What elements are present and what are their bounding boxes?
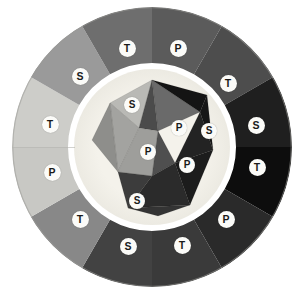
outer-label-badge-7-t[interactable]: T [72, 211, 89, 228]
outer-label-badge-4-p[interactable]: P [218, 211, 235, 228]
outer-label-badge-9-t[interactable]: T [42, 116, 59, 133]
outer-label-badge-3-t[interactable]: T [249, 159, 266, 176]
inner-label-badge-4-p[interactable]: P [179, 157, 195, 173]
inner-label-badge-3-p[interactable]: P [140, 144, 156, 160]
outer-label-badge-11-t[interactable]: T [119, 40, 136, 57]
outer-label-badge-8-p[interactable]: P [44, 164, 61, 181]
inner-label-badge-1-p[interactable]: P [171, 120, 187, 136]
outer-label-badge-5-t[interactable]: T [174, 237, 191, 254]
outer-label-badge-2-s[interactable]: S [248, 117, 265, 134]
outer-label-badge-10-s[interactable]: S [72, 68, 89, 85]
outer-label-badge-1-t[interactable]: T [220, 75, 237, 92]
outer-label-badge-0-p[interactable]: P [170, 40, 187, 57]
outer-label-badge-6-s[interactable]: S [120, 238, 137, 255]
inner-label-badge-0-s[interactable]: S [124, 97, 140, 113]
inner-label-badge-2-s[interactable]: S [201, 123, 217, 139]
inner-label-badge-5-s[interactable]: S [129, 193, 145, 209]
figure-root: PTSTPTSTPTSTSPSPPS [0, 0, 306, 295]
